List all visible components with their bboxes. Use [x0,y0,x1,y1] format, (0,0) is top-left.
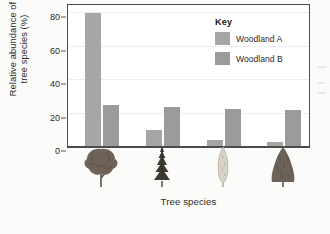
y-axis-tick-label-0: 0 [55,146,60,156]
legend-item-woodland-b: Woodland B [215,52,297,65]
bar-group-2 [146,107,180,147]
columnar-poplar-tree-icon [213,145,233,191]
conical-fir-tree-icon [268,145,298,191]
y-axis-tick-label-80: 80 [50,12,60,22]
tree-species-icons [67,149,310,191]
y-axis-title-line-2: tree species (%) [19,15,30,84]
bar-group-4 [267,110,301,147]
legend-item-woodland-a: Woodland A [215,32,297,45]
plot-area: Key Woodland A Woodland B [67,4,310,148]
y-axis-tick-mark-20 [61,117,66,118]
y-axis-tick-mark-80 [61,17,66,18]
legend-label-woodland-a: Woodland A [236,34,282,44]
broadleaf-tree-icon [81,145,121,191]
spruce-conifer-tree-icon [149,145,175,191]
bar-group-1 [85,13,119,147]
y-axis-tick-label-60: 60 [50,46,60,56]
bar-group-3 [207,109,241,147]
bar-woodland-b-1 [103,105,119,147]
y-axis-title: Relative abundance of tree species (%) [2,0,36,114]
page-bleed-artifact [314,0,330,234]
y-axis-ticks: 020406080 [38,4,66,148]
legend-swatch-woodland-b [215,52,230,65]
legend-title: Key [215,17,297,27]
y-axis-tick-mark-40 [61,84,66,85]
legend-key: Key Woodland A Woodland B [215,17,297,72]
y-axis-tick-mark-60 [61,50,66,51]
chart-page: Relative abundance of tree species (%) 0… [0,0,330,234]
bar-woodland-b-3 [225,109,241,147]
x-axis-title: Tree species [67,196,310,207]
y-axis-tick-label-40: 40 [50,79,60,89]
bar-woodland-b-4 [285,110,301,147]
y-axis-tick-label-20: 20 [50,113,60,123]
legend-swatch-woodland-a [215,32,230,45]
bar-woodland-b-2 [164,107,180,147]
y-axis-title-line-1: Relative abundance of [8,2,19,97]
bar-woodland-a-1 [85,13,101,147]
y-axis-tick-mark-0 [61,151,66,152]
legend-label-woodland-b: Woodland B [236,54,283,64]
